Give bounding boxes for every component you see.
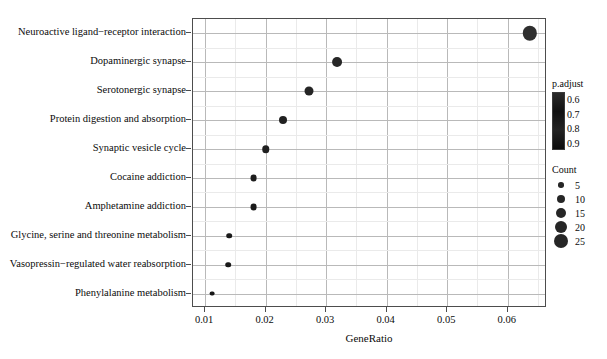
grid-line-minor-horizontal bbox=[193, 77, 545, 78]
count-legend-dot bbox=[556, 208, 567, 219]
y-axis-label: Neuroactive ligand−receptor interaction bbox=[18, 27, 186, 38]
y-axis-tick bbox=[186, 206, 191, 207]
grid-line-minor-horizontal bbox=[193, 192, 545, 193]
y-axis-tick bbox=[186, 61, 191, 62]
grid-line-major-horizontal bbox=[193, 120, 545, 121]
grid-line-major-horizontal bbox=[193, 91, 545, 92]
y-axis-tick bbox=[186, 32, 191, 33]
padjust-colorbar bbox=[552, 92, 565, 150]
y-axis-label: Serotonergic synapse bbox=[97, 85, 186, 96]
grid-line-minor-horizontal bbox=[193, 135, 545, 136]
y-axis-tick bbox=[186, 119, 191, 120]
count-legend-dot bbox=[557, 195, 566, 204]
count-legend-label: 5 bbox=[575, 180, 580, 191]
legend-title-count: Count bbox=[552, 164, 607, 175]
count-legend-label: 25 bbox=[575, 236, 585, 247]
colorbar-tick-label: 0.9 bbox=[567, 137, 580, 148]
grid-line-minor-horizontal bbox=[193, 279, 545, 280]
y-axis-tick bbox=[186, 90, 191, 91]
x-axis-tick-label: 0.06 bbox=[498, 314, 516, 325]
grid-line-major-horizontal bbox=[193, 178, 545, 179]
x-axis-tick bbox=[507, 307, 508, 312]
y-axis-label: Protein digestion and absorption bbox=[50, 114, 186, 125]
grid-line-major-horizontal bbox=[193, 265, 545, 266]
y-axis-label: Cocaine addiction bbox=[110, 172, 186, 183]
x-axis-title: GeneRatio bbox=[192, 332, 546, 344]
y-axis-label: Phenylalanine metabolism bbox=[75, 287, 186, 298]
count-legend: Count 510152025 bbox=[550, 164, 607, 248]
y-axis-tick bbox=[186, 148, 191, 149]
count-legend-label: 20 bbox=[575, 222, 585, 233]
count-legend-item: 15 bbox=[550, 206, 607, 220]
grid-line-minor-horizontal bbox=[193, 48, 545, 49]
count-legend-item: 20 bbox=[550, 220, 607, 234]
legend: p.adjust 0.60.70.80.9 Count 510152025 bbox=[550, 78, 607, 248]
x-axis-tick bbox=[386, 307, 387, 312]
data-point bbox=[522, 26, 536, 40]
data-point bbox=[210, 291, 215, 296]
colorbar-wrap: 0.60.70.80.9 bbox=[550, 92, 602, 150]
grid-line-major-horizontal bbox=[193, 236, 545, 237]
data-point bbox=[262, 145, 270, 153]
y-axis-tick bbox=[186, 177, 191, 178]
count-legend-swatch bbox=[550, 221, 572, 234]
count-legend-swatch bbox=[550, 182, 572, 188]
y-axis-label: Amphetamine addiction bbox=[85, 201, 186, 212]
data-point bbox=[225, 262, 231, 268]
dotplot-figure: Neuroactive ligand−receptor interactionD… bbox=[0, 0, 607, 359]
grid-line-major-horizontal bbox=[193, 33, 545, 34]
y-axis-label: Synaptic vesicle cycle bbox=[93, 143, 186, 154]
count-legend-swatch bbox=[550, 208, 572, 219]
x-axis-tick-label: 0.04 bbox=[376, 314, 394, 325]
y-axis-label: Glycine, serine and threonine metabolism bbox=[11, 230, 186, 241]
y-axis-tick bbox=[186, 235, 191, 236]
count-legend-item: 25 bbox=[550, 234, 607, 248]
count-legend-label: 15 bbox=[575, 208, 585, 219]
count-legend-label: 10 bbox=[575, 194, 585, 205]
x-axis-tick bbox=[204, 307, 205, 312]
grid-line-minor-horizontal bbox=[193, 164, 545, 165]
colorbar-tick-label: 0.6 bbox=[567, 94, 580, 105]
grid-line-major-horizontal bbox=[193, 207, 545, 208]
plot-panel bbox=[192, 18, 546, 307]
count-legend-dot bbox=[555, 221, 568, 234]
y-axis-label: Vasopressin−regulated water reabsorption bbox=[10, 258, 186, 269]
grid-line-minor-horizontal bbox=[193, 221, 545, 222]
count-legend-swatch bbox=[550, 195, 572, 204]
data-point bbox=[332, 57, 342, 67]
data-point bbox=[227, 233, 233, 239]
data-point bbox=[305, 87, 314, 96]
data-point bbox=[250, 174, 257, 181]
grid-line-minor-horizontal bbox=[193, 250, 545, 251]
x-axis-tick-label: 0.05 bbox=[437, 314, 455, 325]
count-legend-item: 5 bbox=[550, 178, 607, 192]
y-axis-label: Dopaminergic synapse bbox=[90, 56, 186, 67]
y-axis: Neuroactive ligand−receptor interactionD… bbox=[0, 0, 186, 359]
data-point bbox=[279, 116, 287, 124]
colorbar-tick-label: 0.7 bbox=[567, 108, 580, 119]
x-axis-tick-label: 0.02 bbox=[255, 314, 273, 325]
count-legend-item: 10 bbox=[550, 192, 607, 206]
y-axis-tick bbox=[186, 293, 191, 294]
x-axis-tick-label: 0.01 bbox=[195, 314, 213, 325]
colorbar-tick-label: 0.8 bbox=[567, 123, 580, 134]
grid-line-minor-horizontal bbox=[193, 106, 545, 107]
y-axis-tick bbox=[186, 264, 191, 265]
count-legend-swatch bbox=[550, 234, 572, 248]
count-legend-dot bbox=[554, 234, 568, 248]
grid-line-major-horizontal bbox=[193, 149, 545, 150]
x-axis-tick bbox=[325, 307, 326, 312]
data-point bbox=[250, 203, 257, 210]
legend-title-padjust: p.adjust bbox=[552, 78, 607, 89]
x-axis-tick-label: 0.03 bbox=[316, 314, 334, 325]
count-legend-dot bbox=[558, 182, 564, 188]
x-axis-tick bbox=[265, 307, 266, 312]
grid-line-major-horizontal bbox=[193, 294, 545, 295]
x-axis-tick bbox=[446, 307, 447, 312]
grid-line-major-horizontal bbox=[193, 62, 545, 63]
